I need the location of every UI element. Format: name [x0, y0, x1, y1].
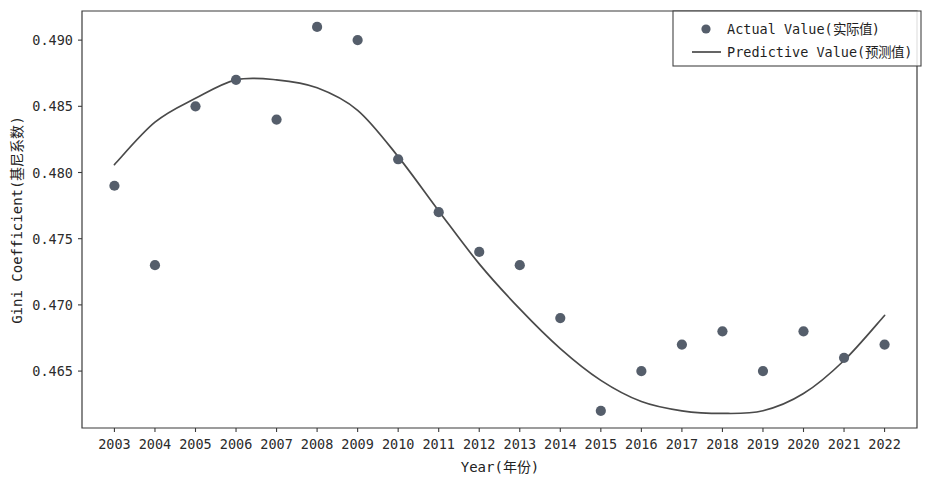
x-tick-label: 2005 — [179, 436, 212, 452]
chart-background — [0, 0, 933, 485]
x-tick-label: 2007 — [260, 436, 293, 452]
chart-figure: 0.4650.4700.4750.4800.4850.490 200320042… — [0, 0, 933, 485]
chart-legend: Actual Value(实际值) Predictive Value(预测值) — [673, 11, 921, 66]
x-tick-label: 2010 — [382, 436, 415, 452]
actual-value-point — [353, 35, 363, 45]
x-tick-label: 2012 — [463, 436, 496, 452]
actual-value-point — [636, 366, 646, 376]
actual-value-point — [758, 366, 768, 376]
actual-value-point — [596, 406, 606, 416]
y-tick-label: 0.485 — [32, 98, 73, 114]
x-tick-label: 2015 — [585, 436, 618, 452]
actual-value-point — [150, 260, 160, 270]
y-axis-title: Gini Coefficient(基尼系数) — [9, 116, 25, 324]
x-tick-label: 2013 — [504, 436, 537, 452]
y-tick-label: 0.490 — [32, 32, 73, 48]
x-tick-label: 2022 — [868, 436, 901, 452]
actual-value-point — [677, 340, 687, 350]
actual-value-point — [515, 260, 525, 270]
y-tick-label: 0.475 — [32, 231, 73, 247]
x-tick-label: 2021 — [828, 436, 861, 452]
x-tick-label: 2014 — [544, 436, 577, 452]
y-tick-label: 0.480 — [32, 165, 73, 181]
actual-value-point — [555, 313, 565, 323]
actual-value-point — [393, 154, 403, 164]
x-tick-label: 2011 — [422, 436, 455, 452]
y-tick-label: 0.470 — [32, 297, 73, 313]
actual-value-point — [231, 75, 241, 85]
x-tick-label: 2017 — [666, 436, 699, 452]
actual-value-point — [798, 326, 808, 336]
x-tick-label: 2004 — [139, 436, 172, 452]
x-tick-label: 2003 — [98, 436, 131, 452]
actual-value-point — [717, 326, 727, 336]
x-tick-label: 2008 — [301, 436, 334, 452]
actual-value-point — [271, 114, 281, 124]
gini-coefficient-chart: 0.4650.4700.4750.4800.4850.490 200320042… — [0, 0, 933, 485]
legend-label-actual: Actual Value(实际值) — [727, 21, 880, 37]
legend-label-predictive: Predictive Value(预测值) — [727, 44, 912, 60]
x-tick-label: 2020 — [787, 436, 820, 452]
actual-value-point — [109, 181, 119, 191]
x-tick-label: 2018 — [706, 436, 739, 452]
y-tick-label: 0.465 — [32, 363, 73, 379]
actual-value-point — [474, 247, 484, 257]
actual-value-point — [312, 22, 322, 32]
actual-value-point — [190, 101, 200, 111]
legend-marker-icon — [701, 24, 710, 33]
x-tick-label: 2009 — [341, 436, 374, 452]
actual-value-point — [434, 207, 444, 217]
x-tick-label: 2006 — [220, 436, 253, 452]
x-axis-title: Year(年份) — [461, 459, 540, 475]
x-tick-label: 2016 — [625, 436, 658, 452]
actual-value-point — [879, 340, 889, 350]
actual-value-point — [839, 353, 849, 363]
x-tick-label: 2019 — [747, 436, 780, 452]
